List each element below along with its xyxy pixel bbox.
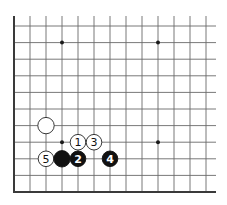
go-board: 12345 — [0, 0, 227, 205]
black-stone-icon — [54, 151, 70, 167]
move-number-label: 4 — [106, 153, 114, 166]
black-stone-4: 4 — [102, 151, 118, 167]
star-point-icon — [156, 41, 160, 45]
black-stone — [54, 151, 70, 167]
white-stone-icon — [38, 117, 54, 133]
white-stone — [38, 117, 54, 133]
move-number-label: 5 — [43, 153, 50, 166]
move-number-label: 3 — [91, 136, 98, 149]
move-number-label: 1 — [75, 136, 82, 149]
white-stone-5: 5 — [38, 151, 54, 167]
white-stone-3: 3 — [86, 134, 102, 150]
star-point-icon — [60, 41, 64, 45]
white-stone-1: 1 — [70, 134, 86, 150]
star-point-icon — [156, 140, 160, 144]
black-stone-2: 2 — [70, 151, 86, 167]
move-number-label: 2 — [74, 153, 82, 166]
star-point-icon — [60, 140, 64, 144]
